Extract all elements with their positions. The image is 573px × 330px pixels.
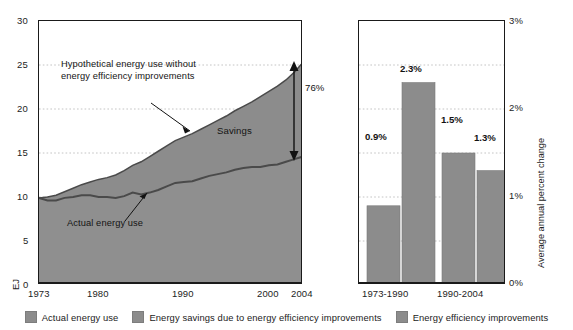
legend-item-efficiency-improvements: Energy efficiency improvements <box>396 311 549 323</box>
bar <box>367 206 400 284</box>
left-xtick-2004: 2004 <box>291 288 313 299</box>
left-ytick-20: 20 <box>17 103 28 114</box>
left-chart-panel: 30 25 20 15 10 5 0 EJ 1973 1980 1990 200… <box>0 0 330 300</box>
figure-root: 30 25 20 15 10 5 0 EJ 1973 1980 1990 200… <box>0 0 573 330</box>
left-ytick-15: 15 <box>17 147 28 158</box>
right-ytick-2: 2% <box>509 102 523 113</box>
chart-legend: Actual energy use Energy savings due to … <box>0 304 573 330</box>
bar <box>477 171 505 284</box>
actual-annotation: Actual energy use <box>67 218 143 230</box>
legend-swatch-icon <box>396 311 408 323</box>
right-xtick-1973-1990: 1973-1990 <box>362 288 408 299</box>
right-plot-area: 0.9% 2.3% 1.5% 1.3% <box>358 20 505 284</box>
bar-label-1-3: 1.3% <box>474 132 496 143</box>
legend-item-actual-energy-use: Actual energy use <box>25 311 119 323</box>
legend-label: Energy efficiency improvements <box>413 312 549 323</box>
hypothetical-annotation-line1: Hypothetical energy use without <box>61 59 196 71</box>
right-chart-panel: 3% 2% 1% 0% Average annual percent chang… <box>340 0 573 300</box>
hypothetical-annotation: Hypothetical energy use without energy e… <box>61 59 196 82</box>
right-bar-chart-svg <box>359 21 505 284</box>
savings-percent-annotation: 76% <box>305 82 325 94</box>
right-xtick-1990-2004: 1990-2004 <box>437 288 483 299</box>
left-ytick-5: 5 <box>23 235 28 246</box>
right-ytick-1: 1% <box>509 190 523 201</box>
left-xtick-1990: 1990 <box>172 288 194 299</box>
hypothetical-annotation-line2: energy efficiency improvements <box>61 71 196 83</box>
right-ytick-3: 3% <box>509 15 523 26</box>
legend-label: Actual energy use <box>42 312 119 323</box>
bar <box>442 153 475 284</box>
bar-label-1-5: 1.5% <box>441 114 463 125</box>
left-ytick-10: 10 <box>17 191 28 202</box>
hypothetical-leader-arrow <box>151 103 190 134</box>
left-xtick-1980: 1980 <box>87 288 109 299</box>
bar <box>402 83 435 284</box>
bar-label-2-3: 2.3% <box>400 63 422 74</box>
legend-swatch-icon <box>25 311 37 323</box>
left-xtick-2000: 2000 <box>257 288 279 299</box>
left-plot-area: Hypothetical energy use without energy e… <box>38 20 302 284</box>
legend-swatch-icon <box>132 311 144 323</box>
right-ytick-0: 0% <box>509 277 523 288</box>
bar-group <box>367 83 505 284</box>
left-ytick-25: 25 <box>17 59 28 70</box>
savings-annotation: Savings <box>217 125 252 137</box>
legend-item-energy-savings: Energy savings due to energy efficiency … <box>132 311 381 323</box>
left-axis-title-ej: EJ <box>10 279 21 290</box>
left-xtick-1973: 1973 <box>28 288 50 299</box>
left-ytick-30: 30 <box>17 15 28 26</box>
legend-label: Energy savings due to energy efficiency … <box>149 312 381 323</box>
right-axis-title: Average annual percent change <box>536 138 546 268</box>
bar-label-0-9: 0.9% <box>365 131 387 142</box>
